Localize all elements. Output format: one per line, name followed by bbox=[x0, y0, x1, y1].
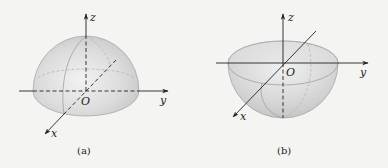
caption-b: (b) bbox=[277, 145, 291, 156]
z-axis-label: z bbox=[287, 11, 294, 24]
y-axis-label: y bbox=[359, 66, 367, 79]
y-axis-label: y bbox=[159, 94, 167, 107]
panel-a: z y x O (a) bbox=[19, 11, 168, 156]
origin-label: O bbox=[286, 66, 295, 79]
panel-b: z y x O (b) bbox=[216, 11, 368, 156]
origin-label: O bbox=[81, 95, 90, 108]
hemisphere-figure: z y x O (a) z y x O (b) bbox=[0, 0, 388, 168]
x-axis-label: x bbox=[51, 127, 58, 140]
caption-a: (a) bbox=[77, 145, 91, 156]
z-axis-label: z bbox=[89, 11, 96, 24]
x-axis-label: x bbox=[240, 110, 247, 123]
